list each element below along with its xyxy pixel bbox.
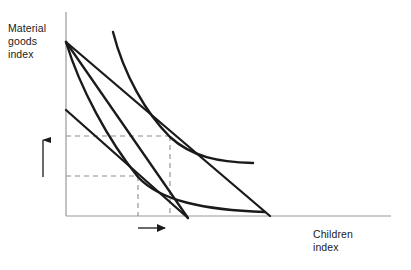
y-axis-label: Material goods index (8, 22, 46, 61)
x-axis-label: Children index (313, 228, 353, 254)
indifference-curve-high (113, 32, 253, 163)
budget-lines (66, 42, 270, 218)
indifference-curve-figure: Material goods index Children index (0, 0, 411, 270)
